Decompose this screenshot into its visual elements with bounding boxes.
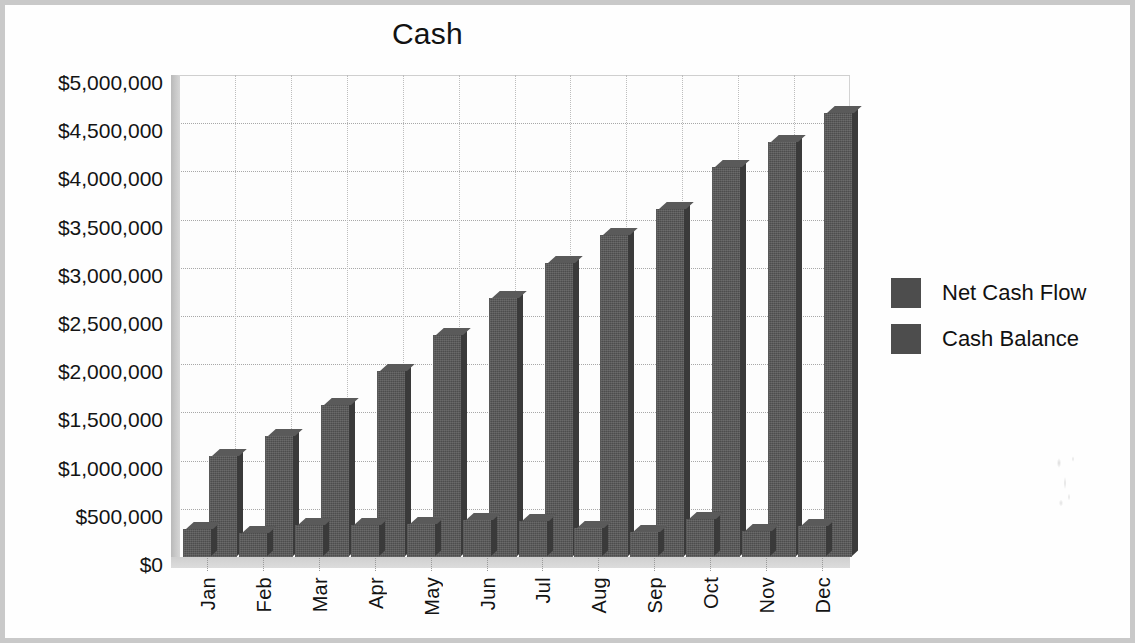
y-axis-tick-label: $1,000,000 bbox=[23, 457, 163, 481]
bar-cash-balance[interactable] bbox=[656, 209, 683, 557]
x-axis-tick bbox=[207, 558, 208, 571]
y-axis-tick-label: $2,000,000 bbox=[23, 360, 163, 384]
bar-cluster bbox=[574, 75, 624, 557]
scan-artifact-smudge bbox=[1051, 453, 1087, 515]
x-axis-tick-label: Feb bbox=[253, 577, 276, 612]
bar-cluster bbox=[295, 75, 345, 557]
legend-item[interactable]: Cash Balance bbox=[891, 316, 1086, 362]
bar-net-cash-flow[interactable] bbox=[574, 528, 601, 557]
legend-item-label: Cash Balance bbox=[942, 326, 1079, 352]
bar-face bbox=[686, 519, 714, 557]
y-axis-tick-label: $4,500,000 bbox=[23, 119, 163, 143]
x-axis-tick-label: Jul bbox=[532, 577, 555, 603]
x-axis-tick bbox=[319, 558, 320, 571]
bar-net-cash-flow[interactable] bbox=[798, 526, 825, 557]
x-axis-tick-label: May bbox=[421, 577, 444, 616]
y-axis-tick-label: $0 bbox=[23, 553, 163, 577]
bar-side-3d bbox=[516, 291, 523, 557]
bar-cluster bbox=[742, 75, 792, 557]
bar-cluster bbox=[630, 75, 680, 557]
x-axis-tick-label: Mar bbox=[309, 577, 332, 612]
bar-side-3d bbox=[546, 515, 553, 557]
bar-net-cash-flow[interactable] bbox=[351, 525, 378, 557]
bar-net-cash-flow[interactable] bbox=[519, 521, 546, 557]
legend-item-label: Net Cash Flow bbox=[942, 280, 1086, 306]
bar-face bbox=[824, 113, 852, 557]
x-axis-tick-label: Dec bbox=[812, 577, 835, 613]
x-axis-tick bbox=[263, 558, 264, 571]
bar-face bbox=[463, 520, 491, 557]
bar-cluster bbox=[407, 75, 457, 557]
bar-net-cash-flow[interactable] bbox=[407, 524, 434, 557]
bar-face bbox=[798, 526, 826, 557]
bar-cash-balance[interactable] bbox=[712, 167, 739, 557]
bar-side-3d bbox=[713, 513, 720, 557]
bar-cluster bbox=[519, 75, 569, 557]
bar-face bbox=[742, 531, 770, 557]
y-axis-tick-label: $4,000,000 bbox=[23, 167, 163, 191]
bar-face bbox=[712, 167, 740, 557]
bar-face bbox=[239, 533, 267, 557]
bar-face bbox=[295, 525, 323, 557]
legend-color-swatch bbox=[891, 324, 921, 354]
x-axis-tick bbox=[542, 558, 543, 571]
y-axis-tick-label: $500,000 bbox=[23, 505, 163, 529]
bar-cash-balance[interactable] bbox=[824, 113, 851, 557]
bar-cash-balance[interactable] bbox=[768, 142, 795, 557]
x-axis-tick bbox=[822, 558, 823, 571]
bar-face bbox=[183, 529, 211, 557]
bar-cluster bbox=[463, 75, 513, 557]
x-axis-tick bbox=[710, 558, 711, 571]
bar-cash-balance[interactable] bbox=[600, 235, 627, 557]
bar-net-cash-flow[interactable] bbox=[295, 525, 322, 557]
bar-cluster bbox=[798, 75, 848, 557]
x-axis-tick bbox=[598, 558, 599, 571]
y-axis-tick-label: $2,500,000 bbox=[23, 312, 163, 336]
bar-side-3d bbox=[739, 160, 746, 557]
bar-face bbox=[768, 142, 796, 557]
x-axis-floor bbox=[171, 557, 850, 568]
bar-net-cash-flow[interactable] bbox=[183, 529, 210, 557]
chart-legend: Net Cash FlowCash Balance bbox=[891, 270, 1086, 362]
bar-side-3d bbox=[683, 202, 690, 557]
plot-area bbox=[171, 75, 850, 567]
y-axis-tick-label: $1,500,000 bbox=[23, 408, 163, 432]
bar-net-cash-flow[interactable] bbox=[463, 520, 490, 557]
bar-cluster bbox=[686, 75, 736, 557]
bar-face bbox=[630, 532, 658, 557]
bar-cash-balance[interactable] bbox=[545, 263, 572, 557]
legend-item[interactable]: Net Cash Flow bbox=[891, 270, 1086, 316]
x-axis-tick-label: Oct bbox=[700, 577, 723, 609]
x-axis-tick bbox=[766, 558, 767, 571]
bar-net-cash-flow[interactable] bbox=[686, 519, 713, 557]
bar-cluster bbox=[183, 75, 233, 557]
legend-color-swatch bbox=[891, 278, 921, 308]
bar-face bbox=[600, 235, 628, 557]
bar-side-3d bbox=[572, 256, 579, 557]
y-axis-tick-label: $5,000,000 bbox=[23, 71, 163, 95]
chart-title: Cash bbox=[5, 17, 850, 51]
x-axis-tick-label: Jun bbox=[477, 577, 500, 610]
y-axis-wall bbox=[171, 75, 180, 567]
bar-net-cash-flow[interactable] bbox=[630, 532, 657, 557]
x-axis-tick-label: Jan bbox=[197, 577, 220, 610]
bar-face bbox=[545, 263, 573, 557]
bar-side-3d bbox=[795, 136, 802, 557]
x-axis-tick-label: Aug bbox=[588, 577, 611, 614]
bar-side-3d bbox=[851, 106, 858, 557]
x-axis-tick bbox=[487, 558, 488, 571]
x-axis-tick bbox=[654, 558, 655, 571]
y-axis-tick-label: $3,500,000 bbox=[23, 216, 163, 240]
x-axis-tick-label: Nov bbox=[756, 577, 779, 613]
y-axis-tick-label: $3,000,000 bbox=[23, 264, 163, 288]
chart-frame: Cash $0$500,000$1,000,000$1,500,000$2,00… bbox=[0, 0, 1135, 643]
bar-face bbox=[351, 525, 379, 557]
bar-side-3d bbox=[627, 229, 634, 557]
bar-net-cash-flow[interactable] bbox=[239, 533, 266, 557]
bar-face bbox=[656, 209, 684, 557]
bar-net-cash-flow[interactable] bbox=[742, 531, 769, 557]
bar-cluster bbox=[239, 75, 289, 557]
x-axis-tick-label: Apr bbox=[365, 577, 388, 609]
x-axis-tick-label: Sep bbox=[644, 577, 667, 614]
x-axis-tick bbox=[375, 558, 376, 571]
